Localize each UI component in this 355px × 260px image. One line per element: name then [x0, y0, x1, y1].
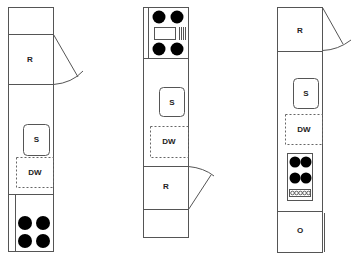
burner-icon: [153, 43, 166, 56]
sink: S: [160, 88, 185, 117]
door-leaf: [189, 175, 212, 210]
burner-icon: [36, 234, 50, 248]
burner-icon: [301, 157, 312, 168]
layout-right: R S DW: [278, 8, 352, 253]
burner-icon: [36, 216, 50, 230]
sink: S: [24, 125, 50, 156]
refrigerator-label: R: [27, 55, 33, 64]
burner-icon: [171, 11, 184, 24]
sink: S: [294, 79, 319, 109]
burner-icon: [301, 173, 312, 184]
knob-icon: [307, 191, 311, 195]
dishwasher-label: DW: [28, 168, 42, 177]
dishwasher-label: DW: [162, 137, 176, 146]
burner-icon: [290, 173, 301, 184]
layout-middle: S DW R: [144, 8, 215, 238]
counter-outline: [144, 8, 189, 238]
layout-left: R S DW: [9, 8, 84, 252]
door-swing-arc: [54, 71, 84, 85]
burner-icon: [171, 43, 184, 56]
cooktop: [288, 154, 313, 201]
knob-icon: [295, 191, 299, 195]
sink-label: S: [34, 135, 40, 144]
griddle-panel: [155, 28, 176, 40]
door-swing-arc: [189, 167, 215, 177]
knob-icon: [291, 191, 295, 195]
knob-icon: [303, 191, 307, 195]
refrigerator-label: R: [163, 182, 169, 191]
burner-icon: [153, 11, 166, 24]
burner-icon: [290, 157, 301, 168]
door-swing-arc: [323, 40, 352, 51]
dishwasher-label: DW: [297, 125, 311, 134]
door-leaf: [54, 35, 79, 78]
door-leaf: [323, 8, 344, 45]
refrigerator-label: R: [297, 26, 303, 35]
oven-label: O: [297, 226, 303, 235]
burner-icon: [18, 234, 32, 248]
sink-label: S: [169, 98, 175, 107]
kitchen-layouts-diagram: R S DW: [0, 0, 355, 260]
burner-icon: [18, 216, 32, 230]
sink-label: S: [303, 89, 309, 98]
knob-icon: [299, 191, 303, 195]
